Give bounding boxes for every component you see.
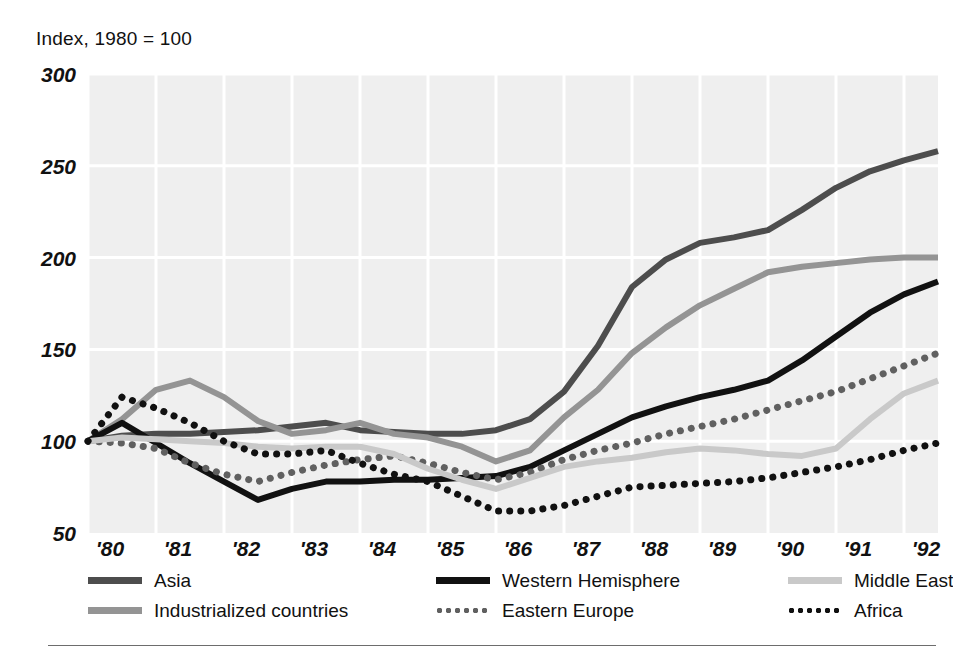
y-axis-tick-label: 300 [41,63,76,86]
plot-background-group [88,74,938,533]
legend-swatch-asia [88,577,142,584]
y-axis-tick-label: 150 [41,338,76,361]
legend-swatch-western-hemisphere [436,577,490,584]
legend-label: Asia [154,571,191,590]
legend-entry-western-hemisphere[interactable]: Western Hemisphere [436,566,680,594]
legend-label: Middle East [854,571,953,590]
x-axis-tick-label: '89 [708,537,737,560]
legend-entry-industrialized-countries[interactable]: Industrialized countries [88,596,348,624]
legend-entry-africa[interactable]: Africa [788,596,903,624]
legend-swatch-middle-east [788,577,842,584]
y-axis-tick-label: 250 [40,155,76,178]
bottom-divider-rule [48,645,936,646]
x-axis-labels: '80'81'82'83'84'85'86'87'88'89'90'91'92 [96,537,941,560]
chart-legend: AsiaWestern HemisphereMiddle EastIndustr… [88,566,950,628]
y-axis-tick-label: 50 [53,522,77,545]
legend-swatch-eastern-europe [436,607,490,614]
legend-swatch-industrialized-countries [88,607,142,614]
x-axis-tick-label: '90 [776,537,805,560]
x-axis-tick-label: '87 [572,537,602,560]
plot-area-background [88,74,938,533]
legend-label: Africa [854,601,903,620]
legend-entry-asia[interactable]: Asia [88,566,191,594]
y-axis-tick-label: 100 [41,430,76,453]
legend-row: Industrialized countriesEastern EuropeAf… [88,596,950,624]
x-axis-tick-label: '81 [164,537,192,560]
legend-label: Eastern Europe [502,601,634,620]
y-axis-tick-label: 200 [40,247,76,270]
x-axis-tick-label: '92 [912,537,941,560]
legend-label: Industrialized countries [154,601,348,620]
legend-entry-eastern-europe[interactable]: Eastern Europe [436,596,634,624]
x-axis-tick-label: '86 [504,537,533,560]
legend-entry-middle-east[interactable]: Middle East [788,566,953,594]
legend-swatch-africa [788,607,842,614]
x-axis-tick-label: '84 [368,537,397,560]
y-axis-labels: 50100150200250300 [40,63,76,545]
legend-row: AsiaWestern HemisphereMiddle East [88,566,950,594]
x-axis-tick-label: '88 [640,537,669,560]
x-axis-tick-label: '85 [436,537,465,560]
x-axis-tick-label: '82 [232,537,261,560]
x-axis-tick-label: '80 [96,537,125,560]
x-axis-tick-label: '83 [300,537,329,560]
x-axis-tick-label: '91 [844,537,872,560]
legend-label: Western Hemisphere [502,571,680,590]
